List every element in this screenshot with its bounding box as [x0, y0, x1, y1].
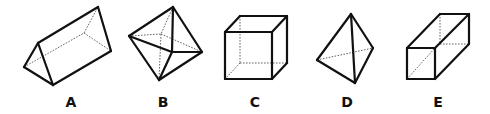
visible-edge: [407, 14, 440, 48]
visible-edge: [38, 43, 53, 85]
rectangular-prism-shape: [407, 14, 469, 79]
visible-edge: [272, 63, 287, 79]
hidden-edge: [129, 34, 161, 36]
visible-edge: [317, 60, 355, 83]
hidden-edge: [407, 48, 435, 79]
visible-edge: [317, 14, 351, 60]
visible-edge: [172, 7, 173, 52]
visible-edge: [38, 7, 98, 43]
visible-edge: [272, 16, 287, 32]
visible-edge: [435, 14, 469, 48]
label-b: B: [158, 94, 169, 110]
tetrahedron-shape: [317, 14, 373, 83]
hidden-edge: [225, 63, 240, 79]
label-a: A: [66, 94, 77, 110]
octahedron-shape: [129, 7, 202, 80]
visible-edge: [351, 14, 355, 83]
hidden-edge: [159, 34, 161, 80]
visible-edge: [173, 7, 202, 52]
solids-figure: A B C D E: [0, 0, 490, 114]
label-c: C: [250, 94, 260, 110]
visible-edge: [98, 7, 111, 51]
cube-shape: [225, 16, 287, 79]
visible-edge: [24, 43, 38, 67]
label-d: D: [341, 94, 353, 110]
triangular-prism-shape: [24, 7, 111, 85]
visible-edge: [435, 44, 469, 79]
visible-edge: [225, 16, 240, 32]
visible-edge: [355, 48, 373, 83]
visible-edge: [53, 51, 111, 85]
visible-edge: [351, 14, 373, 48]
label-e: E: [433, 94, 443, 110]
